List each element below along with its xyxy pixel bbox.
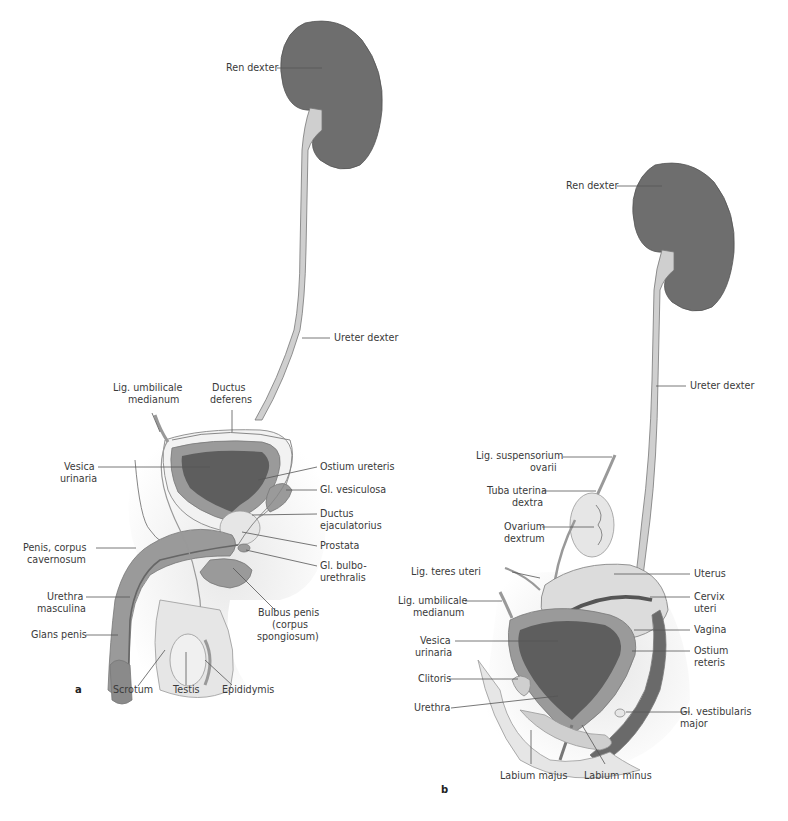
label-clitoris: Clitoris: [418, 673, 451, 684]
ureter-right-b-icon: [633, 250, 674, 600]
label-lig-umbilicale-a-1: Lig. umbilicale: [113, 382, 183, 393]
label-gl-vesiculosa: Gl. vesiculosa: [320, 484, 386, 495]
label-lig-teres: Lig. teres uteri: [411, 566, 481, 577]
label-ureter-dexter-a: Ureter dexter: [334, 332, 398, 343]
label-tuba-1: Tuba uterina: [486, 485, 547, 496]
kidney-right-icon: [281, 21, 383, 169]
label-ostium-1: Ostium: [694, 645, 728, 656]
label-cervix-2: uteri: [694, 603, 716, 614]
label-urethra-masculina-2: masculina: [37, 603, 86, 614]
label-testis: Testis: [172, 684, 200, 695]
label-ostium-2: reteris: [694, 657, 725, 668]
label-epididymis: Epididymis: [222, 684, 274, 695]
label-ductus-ejac-1: Ductus: [320, 508, 354, 519]
label-prostata: Prostata: [320, 540, 360, 551]
label-ren-dexter-b: Ren dexter: [566, 180, 618, 191]
label-penis-cc-2: cavernosum: [27, 554, 86, 565]
label-lig-umbilicale-a-2: medianum: [128, 394, 179, 405]
label-vagina: Vagina: [694, 624, 726, 635]
panel-label-a: a: [75, 684, 82, 695]
label-uterus: Uterus: [694, 568, 726, 579]
kidney-right-b-icon: [633, 163, 735, 311]
panel-label-b: b: [441, 784, 448, 795]
label-gl-vestibularis-2: major: [680, 718, 708, 729]
label-cervix-1: Cervix: [694, 591, 725, 602]
label-labium-minus: Labium minus: [584, 770, 652, 781]
label-bulbus-2: (corpus: [272, 619, 308, 630]
label-glans-penis: Glans penis: [31, 629, 87, 640]
panel-a: Ren dexter Ureter dexter Lig. umbilicale…: [23, 21, 398, 704]
label-bulbus-1: Bulbus penis: [258, 607, 319, 618]
label-vesica-b-1: Vesica: [420, 635, 451, 646]
label-ostium-ureteris: Ostium ureteris: [320, 461, 394, 472]
label-urethra-masculina-1: Urethra: [47, 591, 83, 602]
label-lig-suspensorium-2: ovarii: [530, 462, 557, 473]
label-ren-dexter-a: Ren dexter: [226, 62, 278, 73]
label-bulbus-3: spongiosum): [257, 631, 319, 642]
label-tuba-2: dextra: [512, 497, 543, 508]
testis: [170, 634, 206, 686]
label-ductus-ejac-2: ejaculatorius: [320, 520, 382, 531]
anatomy-diagram: Ren dexter Ureter dexter Lig. umbilicale…: [0, 0, 788, 821]
label-vesica-b-2: urinaria: [415, 647, 452, 658]
label-gl-bulbo-1: Gl. bulbo-: [320, 560, 367, 571]
label-vesica-a-1: Vesica: [64, 461, 95, 472]
label-gl-vestibularis-1: Gl. vestibularis: [680, 706, 752, 717]
gl-vestibularis: [615, 709, 625, 717]
label-ureter-dexter-b: Ureter dexter: [690, 380, 754, 391]
label-labium-majus: Labium majus: [500, 770, 567, 781]
label-penis-cc-1: Penis, corpus: [23, 542, 86, 553]
label-vesica-a-2: urinaria: [60, 473, 97, 484]
ovarium-tuba: [570, 493, 614, 557]
lig-umbilicale-stalk: [155, 415, 168, 442]
label-ductus-deferens-2: deferens: [210, 394, 252, 405]
ureter-right-icon: [255, 108, 322, 420]
label-ovarium-1: Ovarium: [504, 521, 545, 532]
label-gl-bulbo-2: urethralis: [320, 572, 366, 583]
label-ovarium-2: dextrum: [504, 533, 545, 544]
label-lig-suspensorium-1: Lig. suspensorium: [476, 450, 563, 461]
label-ductus-deferens-1: Ductus: [212, 382, 246, 393]
label-urethra-b: Urethra: [414, 702, 450, 713]
label-lig-umbilicale-b-1: Lig. umbilicale: [398, 595, 468, 606]
label-lig-umbilicale-b-2: medianum: [413, 607, 464, 618]
glans-penis: [110, 660, 132, 704]
panel-b: Ren dexter Ureter dexter Lig. suspensori…: [398, 163, 754, 795]
label-scrotum: Scrotum: [113, 684, 153, 695]
